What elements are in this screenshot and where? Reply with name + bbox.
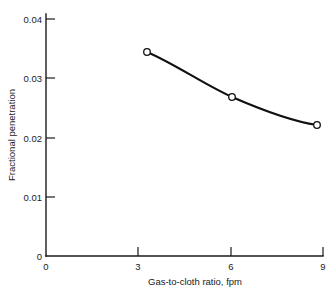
x-tick-label-3: 3	[135, 261, 140, 272]
data-series-curve	[147, 52, 317, 125]
x-tick-label-0: 0	[43, 261, 48, 272]
data-markers	[144, 49, 321, 129]
y-tick-label-0.03: 0.03	[24, 73, 43, 84]
data-point-marker	[229, 94, 236, 101]
x-axis-ticks	[138, 247, 323, 256]
fractional-penetration-line-chart: 0.04 0.03 0.02 0.01 0 0 3 6 9 Gas-to-clo…	[0, 0, 332, 291]
x-tick-label-9: 9	[320, 261, 325, 272]
data-point-marker	[314, 122, 321, 129]
y-tick-label-0: 0	[37, 251, 42, 262]
y-tick-label-0.04: 0.04	[24, 14, 43, 25]
chart-container: 0.04 0.03 0.02 0.01 0 0 3 6 9 Gas-to-clo…	[0, 0, 332, 291]
y-axis-ticks	[46, 19, 55, 197]
x-axis-title: Gas-to-cloth ratio, fpm	[148, 276, 242, 287]
y-tick-label-0.01: 0.01	[24, 192, 43, 203]
y-axis-title: Fractional penetration	[6, 89, 17, 181]
y-tick-label-0.02: 0.02	[24, 133, 43, 144]
data-point-marker	[144, 49, 151, 56]
x-tick-label-6: 6	[228, 261, 233, 272]
